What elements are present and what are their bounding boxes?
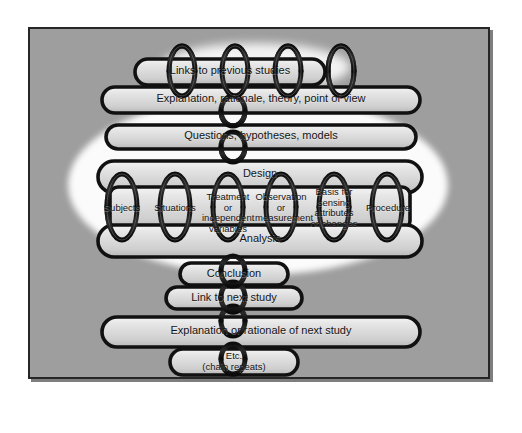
- diagram-stage: Links to previous studies Explanation, r…: [0, 0, 522, 433]
- diagram-panel: Links to previous studies Explanation, r…: [28, 27, 490, 379]
- chain-graphics: [30, 29, 488, 377]
